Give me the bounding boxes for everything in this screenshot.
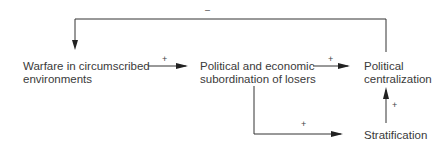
arrowhead-down-icon (72, 40, 78, 50)
arrowhead-right-icon (176, 63, 188, 69)
node-warfare: Warfare in circumscribed environments (23, 60, 150, 86)
node-label: Political and economic (200, 60, 316, 73)
node-centralization: Political centralization (364, 60, 432, 86)
node-label: subordination of losers (200, 73, 316, 86)
edge-subordination-to-stratification (254, 86, 341, 134)
sign-warfare-subordination: + (162, 55, 167, 64)
arrowhead-right-icon (338, 63, 350, 69)
node-label: Warfare in circumscribed (23, 60, 150, 73)
node-label: environments (23, 73, 150, 86)
node-stratification: Stratification (364, 129, 427, 142)
sign-subordination-centralization: + (328, 55, 333, 64)
sign-subordination-stratification: + (301, 120, 306, 129)
edge-centralization-to-warfare (75, 19, 386, 52)
sign-stratification-centralization: + (392, 101, 397, 110)
sign-centralization-warfare: – (205, 6, 210, 15)
node-label: Political (364, 60, 432, 73)
node-subordination: Political and economic subordination of … (200, 60, 316, 86)
node-label: centralization (364, 73, 432, 86)
node-label: Stratification (364, 129, 427, 142)
arrowhead-up-icon (383, 87, 389, 99)
arrowhead-right-icon (331, 131, 343, 137)
